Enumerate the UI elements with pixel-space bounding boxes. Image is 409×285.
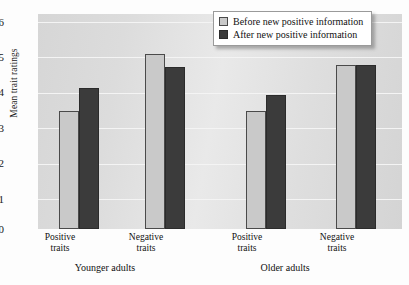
x-category-line1: Negative bbox=[108, 232, 184, 243]
y-tick-5: 5 bbox=[0, 52, 4, 63]
bar-younger-positive-after bbox=[79, 88, 99, 229]
y-tick-0: 0 bbox=[0, 224, 4, 235]
bar-chart-figure: Mean trait ratings 6 5 4 3 2 1 0 Before … bbox=[0, 0, 409, 285]
y-tick-2: 2 bbox=[0, 158, 4, 169]
x-group-younger-adults: Younger adults bbox=[40, 262, 170, 273]
x-category-line1: Negative bbox=[299, 232, 375, 243]
y-tick-6: 6 bbox=[0, 17, 4, 28]
x-category-younger-negative: Negative traits bbox=[108, 232, 184, 254]
x-category-older-positive: Positive traits bbox=[209, 232, 285, 254]
legend-label-before: Before new positive information bbox=[233, 17, 363, 27]
bar-older-positive-after bbox=[266, 95, 286, 229]
x-category-line2: traits bbox=[22, 243, 98, 254]
x-category-older-negative: Negative traits bbox=[299, 232, 375, 254]
x-group-older-adults: Older adults bbox=[220, 262, 350, 273]
x-category-line1: Positive bbox=[22, 232, 98, 243]
legend-swatch-after-icon bbox=[219, 30, 228, 39]
legend: Before new positive information After ne… bbox=[213, 11, 372, 46]
x-category-younger-positive: Positive traits bbox=[22, 232, 98, 254]
legend-item-before: Before new positive information bbox=[219, 15, 363, 28]
bar-older-positive-before bbox=[246, 111, 266, 229]
legend-label-after: After new positive information bbox=[233, 30, 357, 40]
plot-area bbox=[38, 14, 402, 229]
bar-older-negative-after bbox=[356, 65, 376, 229]
y-tick-4: 4 bbox=[0, 87, 4, 98]
x-category-line2: traits bbox=[299, 243, 375, 254]
y-axis-label: Mean trait ratings bbox=[9, 23, 19, 143]
bar-older-negative-before bbox=[336, 65, 356, 229]
x-category-line2: traits bbox=[108, 243, 184, 254]
y-tick-3: 3 bbox=[0, 123, 4, 134]
legend-item-after: After new positive information bbox=[219, 28, 363, 41]
bar-younger-negative-before bbox=[145, 54, 165, 229]
x-category-line2: traits bbox=[209, 243, 285, 254]
legend-swatch-before-icon bbox=[219, 17, 228, 26]
x-category-line1: Positive bbox=[209, 232, 285, 243]
y-tick-1: 1 bbox=[0, 194, 4, 205]
gridline-5 bbox=[38, 57, 402, 58]
bar-younger-negative-after bbox=[165, 67, 185, 229]
bar-younger-positive-before bbox=[59, 111, 79, 229]
